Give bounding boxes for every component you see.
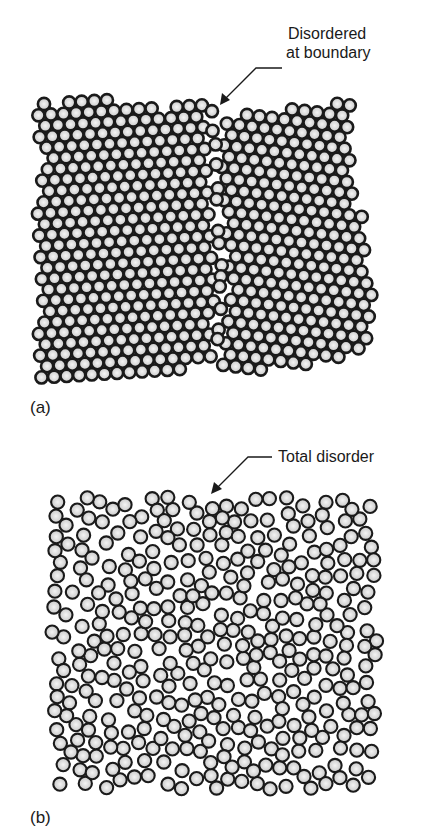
- panel-a-atoms: [32, 94, 378, 383]
- annotation-line-2: at boundary: [286, 43, 371, 62]
- panel-b-atoms: [46, 491, 384, 796]
- figure-canvas: [0, 0, 428, 832]
- panel-a-annotation: Disordered at boundary: [288, 24, 371, 62]
- panel-a-leader-arrow: [220, 68, 282, 105]
- annotation-line-1: Disordered: [288, 24, 371, 43]
- annotation-line-1: Total disorder: [278, 447, 374, 466]
- panel-b-annotation: Total disorder: [278, 447, 374, 466]
- panel-b-leader-arrow: [211, 457, 272, 494]
- panel-a-label: (a): [30, 398, 51, 418]
- panel-b-label: (b): [30, 808, 51, 828]
